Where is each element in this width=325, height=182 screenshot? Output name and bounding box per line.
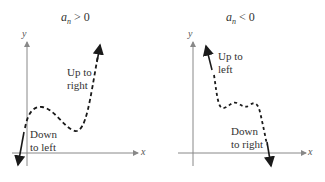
end-arrow-up-left [206,46,212,70]
panel-positive-leading-coefficient: an > 0 y x Up to right Down to left [0,0,162,182]
graph-negative [162,0,325,182]
annotation-down-to-right: Down to right [231,125,263,151]
annotation-up-to-right: Up to right [67,66,92,92]
panel-negative-leading-coefficient: an < 0 y x Up to left Down to right [162,0,325,182]
end-arrow-up-right [97,45,100,62]
y-axis-label: y [188,28,192,39]
end-arrow-down-right [267,142,271,166]
annotation-up-to-left: Up to left [218,50,243,76]
end-arrow-down-left [18,132,24,165]
panel-title: an < 0 [226,10,255,26]
x-axis-label: x [308,146,312,157]
x-axis-label: x [141,146,145,157]
annotation-down-to-left: Down to left [30,128,57,154]
panel-title: an > 0 [61,10,90,26]
y-axis-label: y [22,28,26,39]
